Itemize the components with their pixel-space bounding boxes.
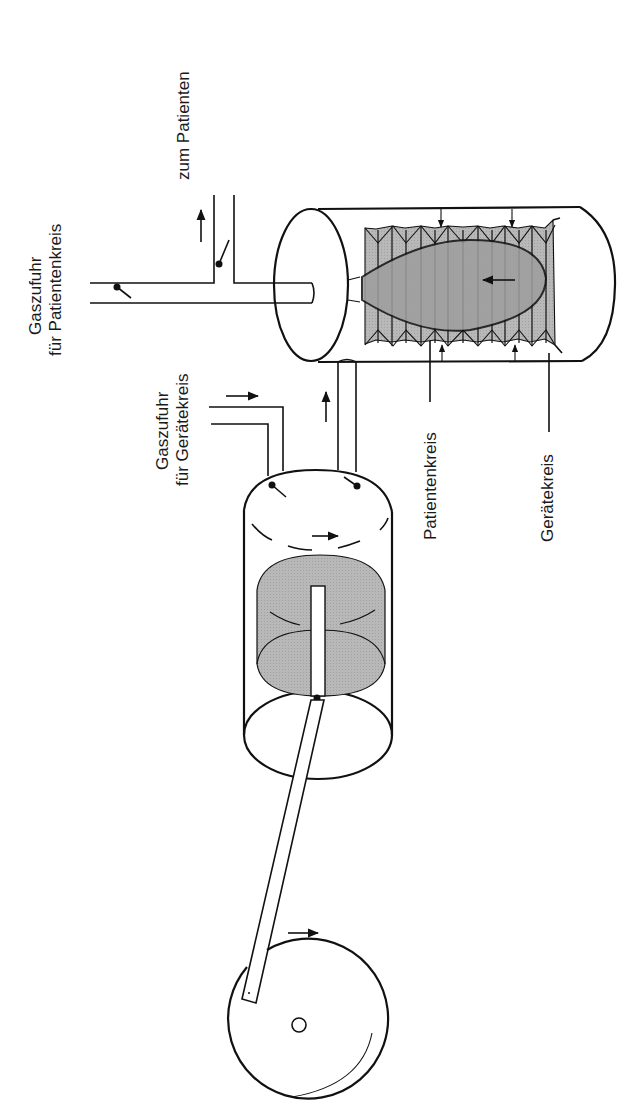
bellows <box>362 209 562 361</box>
label-to-patient: zum Patienten <box>174 71 193 180</box>
label-patient-gas-supply-1: Gaszufuhr <box>26 256 45 335</box>
piston <box>257 555 385 702</box>
label-device-gas-supply-2: für Gerätekreis <box>173 374 192 486</box>
patient-gas-inlet <box>90 195 314 303</box>
ventilator-diagram: zum Patienten Gaszufuhr für Patientenkre… <box>0 0 635 1101</box>
label-patient-gas-supply-2: für Patientenkreis <box>46 224 65 356</box>
label-device-gas-supply-1: Gaszufuhr <box>153 391 172 470</box>
axle-icon <box>292 1018 306 1032</box>
label-device-circuit: Gerätekreis <box>538 454 557 542</box>
connecting-rod <box>242 700 324 1003</box>
label-patient-circuit: Patientenkreis <box>421 432 440 540</box>
device-gas-inlet <box>209 396 283 476</box>
device-pipe <box>326 360 356 473</box>
